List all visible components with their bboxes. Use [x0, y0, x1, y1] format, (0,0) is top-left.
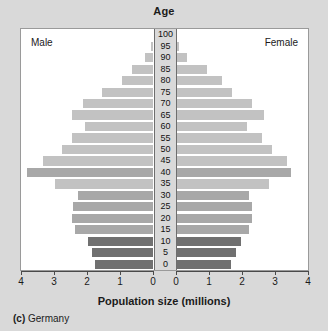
x-tick-left	[87, 271, 88, 275]
male-half	[21, 99, 153, 108]
x-tick-label-right: 2	[239, 276, 245, 287]
male-half	[21, 225, 153, 234]
x-tick-left	[153, 271, 154, 275]
female-bar	[176, 110, 264, 119]
age-tick-label: 10	[155, 237, 176, 246]
female-half	[176, 214, 308, 223]
x-tick-left	[21, 271, 22, 275]
male-bar	[78, 191, 153, 200]
male-half	[21, 214, 153, 223]
male-bar	[75, 225, 153, 234]
female-bar	[176, 225, 249, 234]
x-axis-title: Population size (millions)	[0, 295, 328, 307]
age-tick-label: 50	[155, 145, 176, 154]
male-half	[21, 53, 153, 62]
age-tick-label: 25	[155, 202, 176, 211]
x-tick-right	[275, 271, 276, 275]
male-bar	[55, 179, 153, 188]
male-bar	[151, 42, 153, 51]
male-bar	[73, 202, 153, 211]
x-axis: 4321001234	[20, 271, 309, 297]
caption-index: (c)	[13, 313, 25, 324]
male-bar	[62, 145, 153, 154]
x-tick-left	[54, 271, 55, 275]
male-half	[21, 76, 153, 85]
age-tick-label: 90	[155, 53, 176, 62]
age-tick-label: 80	[155, 76, 176, 85]
male-bar	[88, 237, 153, 246]
female-half	[176, 191, 308, 200]
male-bar	[95, 260, 153, 269]
male-bar	[72, 110, 153, 119]
x-tick-label-right: 3	[272, 276, 278, 287]
female-bar	[176, 156, 287, 165]
female-half	[176, 168, 308, 177]
male-half	[21, 145, 153, 154]
female-bar	[176, 99, 252, 108]
female-bar	[176, 237, 241, 246]
female-bar	[176, 214, 252, 223]
female-half	[176, 122, 308, 131]
female-bar	[176, 53, 187, 62]
female-half	[176, 145, 308, 154]
age-tick-label: 55	[155, 134, 176, 143]
age-tick-label: 0	[155, 260, 176, 269]
x-tick-label-left: 4	[18, 276, 24, 287]
x-tick-right	[176, 271, 177, 275]
age-tick-label: 20	[155, 214, 176, 223]
population-pyramid-figure: Age Male Female 100959085807570656055504…	[0, 0, 328, 331]
age-tick-label: 60	[155, 122, 176, 131]
male-bar	[122, 76, 154, 85]
age-tick-label: 85	[155, 65, 176, 74]
male-bar	[43, 156, 153, 165]
male-bar	[102, 88, 154, 97]
female-bar	[176, 260, 231, 269]
female-half	[176, 202, 308, 211]
age-tick-label: 70	[155, 99, 176, 108]
x-tick-label-right: 0	[173, 276, 179, 287]
x-tick-left	[120, 271, 121, 275]
male-bar	[72, 133, 153, 142]
age-tick-label: 40	[155, 168, 176, 177]
male-bar	[72, 214, 153, 223]
female-bar	[176, 76, 223, 85]
age-axis-column: 1009590858075706560555045403530252015105…	[154, 29, 177, 270]
female-half	[176, 179, 308, 188]
age-tick-label: 30	[155, 191, 176, 200]
male-bar	[85, 122, 153, 131]
male-half	[21, 88, 153, 97]
caption-text: Germany	[28, 313, 69, 324]
male-half	[21, 237, 153, 246]
female-bar	[176, 179, 269, 188]
male-half	[21, 260, 153, 269]
male-bar	[83, 99, 153, 108]
male-half	[21, 168, 153, 177]
female-half	[176, 225, 308, 234]
female-bar	[176, 202, 252, 211]
x-tick-right	[308, 271, 309, 275]
female-half	[176, 42, 308, 51]
male-half	[21, 191, 153, 200]
age-tick-label: 65	[155, 111, 176, 120]
male-bar	[27, 168, 153, 177]
male-half	[21, 122, 153, 131]
female-half	[176, 248, 308, 257]
female-half	[176, 110, 308, 119]
female-bar	[176, 65, 207, 74]
female-half	[176, 88, 308, 97]
male-bar	[145, 53, 153, 62]
age-tick-label: 15	[155, 225, 176, 234]
age-tick-label: 35	[155, 179, 176, 188]
x-tick-label-left: 1	[117, 276, 123, 287]
age-tick-label: 45	[155, 156, 176, 165]
female-bar	[176, 122, 247, 131]
female-half	[176, 237, 308, 246]
male-half	[21, 42, 153, 51]
male-half	[21, 202, 153, 211]
female-half	[176, 30, 308, 39]
x-tick-label-left: 3	[51, 276, 57, 287]
female-bar	[176, 145, 272, 154]
x-tick-label-right: 1	[206, 276, 212, 287]
x-tick-label-left: 2	[84, 276, 90, 287]
chart-title: Age	[0, 5, 328, 17]
